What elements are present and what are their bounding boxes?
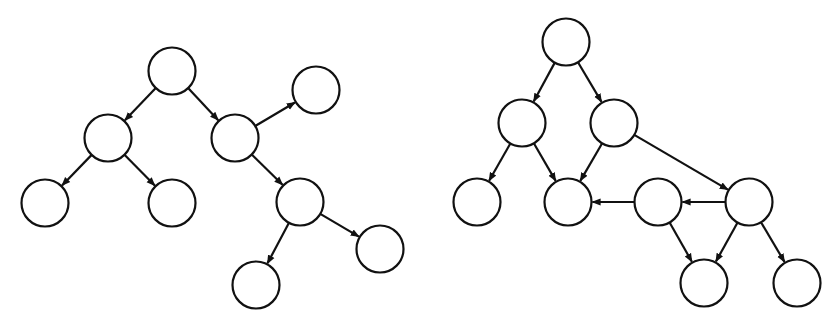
node-h <box>233 262 280 309</box>
edge-b-to-f <box>124 155 154 186</box>
node-e <box>545 179 592 226</box>
node-f <box>635 179 682 226</box>
edge-c-to-d <box>255 102 295 126</box>
node-g <box>277 179 324 226</box>
node-a <box>149 48 196 95</box>
node-d <box>293 67 340 114</box>
node-c <box>591 100 638 147</box>
node-i <box>357 226 404 273</box>
edge-g-to-h <box>716 223 738 262</box>
tree-graph <box>22 48 404 309</box>
node-a <box>543 19 590 66</box>
node-e <box>22 180 69 227</box>
edge-a-to-c <box>578 62 602 102</box>
node-b <box>499 100 546 147</box>
edge-g-to-i <box>761 222 785 262</box>
edge-a-to-b <box>125 88 156 120</box>
node-g <box>726 179 773 226</box>
edge-g-to-h <box>267 223 289 264</box>
edge-b-to-e <box>534 143 556 181</box>
node-b <box>85 115 132 162</box>
node-d <box>454 179 501 226</box>
node-i <box>774 260 821 307</box>
edge-f-to-h <box>670 222 692 261</box>
edge-c-to-e <box>580 143 602 181</box>
node-h <box>681 260 728 307</box>
edge-g-to-i <box>320 214 359 237</box>
edge-b-to-d <box>489 143 510 180</box>
node-c <box>212 115 259 162</box>
edge-a-to-c <box>188 88 218 120</box>
dag-graph <box>454 19 821 307</box>
edge-a-to-b <box>534 63 555 102</box>
diagram-canvas <box>0 0 838 324</box>
edge-c-to-g <box>252 154 283 184</box>
edge-b-to-e <box>62 155 92 186</box>
node-f <box>149 180 196 227</box>
